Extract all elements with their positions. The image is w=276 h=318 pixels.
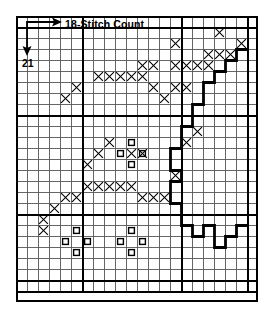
cross-stitch-chart: 18-Stitch Count 21 [0, 0, 276, 318]
row-count-label: 21 [22, 57, 34, 69]
stitch-count-label: 18-Stitch Count [65, 18, 144, 30]
annotation-arrows [0, 0, 276, 318]
annotation-elbow-line [27, 22, 60, 54]
